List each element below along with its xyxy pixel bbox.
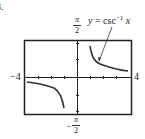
label-pointer-arrow [99,27,112,61]
curve-right-branch [90,46,128,71]
chart-plot [0,0,145,139]
curve-left-branch [27,82,64,108]
